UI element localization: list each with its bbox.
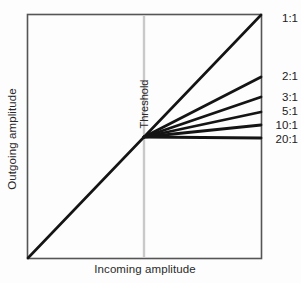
ratio-label-5to1: 5:1 (282, 105, 298, 117)
threshold-label: Threshold (138, 64, 150, 144)
ratio-label-1to1: 1:1 (282, 12, 298, 24)
y-axis-title: Outgoing amplitude (6, 79, 18, 199)
ratio-label-10to1: 10:1 (276, 119, 298, 131)
compressor-ratio-figure: Incoming amplitude Outgoing amplitude Th… (0, 0, 301, 283)
ratio-label-20to1: 20:1 (276, 133, 298, 145)
curve-20to1 (144, 137, 261, 138)
ratio-label-3to1: 3:1 (282, 91, 298, 103)
x-axis-title: Incoming amplitude (0, 263, 290, 275)
plot-area (0, 0, 301, 283)
ratio-label-2to1: 2:1 (282, 70, 298, 82)
